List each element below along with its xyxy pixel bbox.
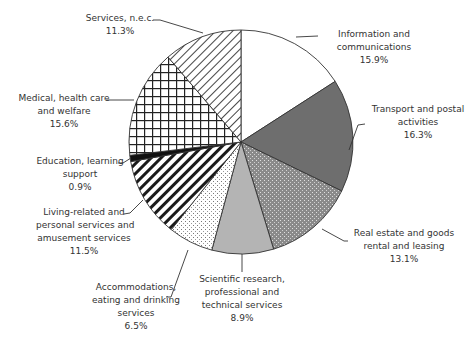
leader-services: [153, 20, 203, 33]
label-percent: 8.9%: [180, 312, 304, 325]
label-accommodations: Accommodations, eating and drinking serv…: [86, 281, 186, 333]
label-line: Information and: [318, 28, 430, 41]
label-line: amusement services: [36, 232, 132, 245]
leader-info: [296, 36, 318, 37]
label-line: eating and drinking: [86, 294, 186, 307]
label-line: and welfare: [16, 105, 112, 118]
label-medical: Medical, health care and welfare 15.6%: [16, 92, 112, 131]
label-line: Transport and postal: [362, 103, 474, 116]
label-line: personal services and: [36, 219, 132, 232]
label-line: activities: [362, 116, 474, 129]
label-line: Services, n.e.c.: [80, 12, 160, 25]
label-line: Accommodations,: [86, 281, 186, 294]
label-info: Information and communications 15.9%: [318, 28, 430, 67]
label-percent: 0.9%: [32, 181, 128, 194]
label-percent: 11.5%: [36, 245, 132, 258]
label-line: Medical, health care: [16, 92, 112, 105]
label-line: Education, learning: [32, 155, 128, 168]
label-percent: 15.6%: [16, 118, 112, 131]
label-services: Services, n.e.c. 11.3%: [80, 12, 160, 38]
label-percent: 13.1%: [344, 253, 464, 266]
label-line: professional and: [180, 286, 304, 299]
label-percent: 16.3%: [362, 129, 474, 142]
label-line: services: [86, 307, 186, 320]
label-percent: 15.9%: [318, 54, 430, 67]
label-line: Living-related and: [36, 206, 132, 219]
label-percent: 6.5%: [86, 320, 186, 333]
label-line: Scientific research,: [180, 273, 304, 286]
label-line: Real estate and goods: [344, 227, 464, 240]
label-living: Living-related and personal services and…: [36, 206, 132, 258]
label-transport: Transport and postal activities 16.3%: [362, 103, 474, 142]
label-scientific: Scientific research, professional and te…: [180, 273, 304, 325]
label-line: rental and leasing: [344, 240, 464, 253]
label-realestate: Real estate and goods rental and leasing…: [344, 227, 464, 266]
label-line: support: [32, 168, 128, 181]
label-line: communications: [318, 41, 430, 54]
label-line: technical services: [180, 299, 304, 312]
label-percent: 11.3%: [80, 25, 160, 38]
label-education: Education, learning support 0.9%: [32, 155, 128, 194]
